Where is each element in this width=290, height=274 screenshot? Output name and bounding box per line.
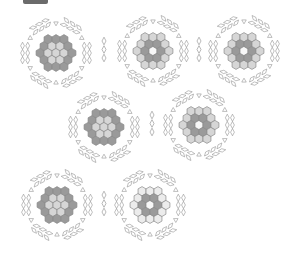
rhombus-tile: [214, 47, 218, 54]
rhombus-tile: [125, 227, 130, 233]
rhombus-tile: [214, 55, 218, 62]
rhombus-tile: [26, 49, 30, 56]
rhombus-tile: [126, 224, 133, 227]
rhombus-tile: [133, 178, 138, 184]
triangle-tile: [122, 219, 127, 223]
rhombus-tile: [40, 178, 45, 184]
rhombus-tile: [132, 228, 139, 231]
rhombus-tile: [82, 42, 86, 49]
diamond-tile: [102, 208, 106, 216]
rhombus-tile: [161, 15, 166, 21]
rhombus-tile: [123, 55, 127, 62]
triangle-tile: [54, 22, 59, 26]
rhombus-tile: [127, 181, 132, 187]
rhombus-tile: [181, 148, 188, 151]
rhombus-tile: [257, 78, 264, 81]
rhombus-tile: [39, 228, 46, 231]
rhombus-tile: [114, 101, 121, 104]
rhombus-tile: [225, 129, 229, 136]
rhombus-tile: [135, 74, 142, 77]
cluster-7: [115, 169, 186, 240]
diamond-tile: [102, 37, 106, 45]
rhombus-tile: [182, 98, 187, 104]
rhombus-tile: [88, 42, 92, 49]
rhombus-tile: [87, 100, 92, 106]
rhombus-tile: [42, 19, 49, 22]
rhombus-tile: [169, 121, 173, 128]
cluster-4: [69, 91, 140, 162]
rhombus-tile: [189, 94, 194, 100]
rhombus-tile: [171, 69, 176, 75]
triangle-tile: [216, 65, 221, 69]
diamond-tile: [102, 191, 106, 199]
rhombus-tile: [86, 150, 93, 153]
rhombus-tile: [126, 24, 133, 27]
rhombus-tile: [270, 40, 274, 47]
rhombus-tile: [270, 47, 274, 54]
rhombus-tile: [225, 121, 229, 128]
rhombus-tile: [30, 178, 37, 181]
triangle-tile: [76, 141, 81, 145]
rhombus-tile: [94, 96, 99, 102]
triangle-tile: [242, 20, 247, 24]
rhombus-tile: [121, 104, 128, 107]
rhombus-tile: [131, 231, 136, 237]
rhombus-tile: [133, 20, 140, 23]
rhombus-tile: [115, 209, 119, 216]
rhombus-tile: [231, 129, 235, 136]
rhombus-tile: [22, 201, 26, 208]
rhombus-tile: [261, 28, 268, 31]
rhombus-tile: [74, 116, 78, 123]
diamond-tile: [150, 111, 154, 119]
rhombus-tile: [71, 173, 76, 179]
rhombus-tile: [44, 235, 49, 241]
rhombus-tile: [214, 40, 218, 47]
hexagonal-tiling-figure: [0, 0, 290, 274]
rhombus-tile: [37, 79, 42, 85]
rhombus-tile: [21, 42, 25, 49]
rhombus-tile: [171, 177, 176, 183]
rhombus-tile: [172, 98, 179, 101]
triangle-tile: [151, 20, 156, 24]
hex-cell: [69, 200, 77, 209]
rhombus-tile: [69, 116, 73, 123]
rhombus-tile: [168, 223, 173, 229]
rhombus-tile: [109, 152, 114, 158]
rhombus-tile: [31, 75, 36, 81]
rhombus-tile: [21, 57, 25, 64]
hex-cell: [211, 120, 219, 129]
rhombus-tile: [143, 20, 148, 26]
rhombus-tile: [252, 15, 257, 21]
triangle-tile: [125, 34, 130, 38]
rhombus-tile: [116, 149, 121, 155]
rhombus-tile: [74, 131, 78, 138]
triangle-tile: [174, 188, 179, 192]
rhombus-tile: [83, 209, 87, 216]
rhombus-tile: [27, 201, 31, 208]
rhombus-tile: [157, 236, 164, 239]
rhombus-tile: [32, 72, 39, 75]
rhombus-tile: [69, 227, 74, 233]
triangle-tile: [128, 141, 133, 145]
rhombus-tile: [216, 102, 223, 105]
rhombus-tile: [82, 49, 86, 56]
rhombus-tile: [69, 131, 73, 138]
triangle-tile: [223, 108, 228, 112]
rhombus-tile: [165, 73, 170, 79]
rhombus-tile: [176, 209, 180, 216]
rhombus-tile: [91, 157, 96, 163]
rhombus-tile: [225, 77, 230, 83]
rhombus-tile: [118, 95, 123, 101]
triangle-tile: [177, 34, 182, 38]
rhombus-tile: [258, 19, 263, 25]
cluster-5: [164, 89, 235, 160]
rhombus-tile: [75, 223, 80, 229]
rhombus-tile: [123, 151, 130, 154]
rhombus-tile: [115, 201, 119, 208]
rhombus-tile: [122, 145, 127, 151]
rhombus-tile: [118, 40, 122, 47]
rhombus-tile: [115, 194, 119, 201]
rhombus-tile: [209, 40, 213, 47]
rhombus-tile: [170, 28, 177, 31]
rhombus-tile: [108, 97, 115, 100]
